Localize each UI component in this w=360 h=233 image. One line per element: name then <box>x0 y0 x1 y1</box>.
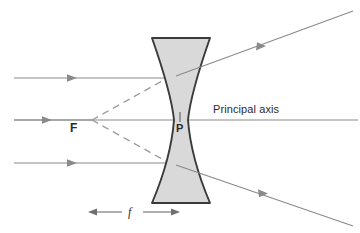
focal-point-label: F <box>70 122 77 134</box>
focal-length-label: f <box>128 206 131 218</box>
axial-incident-ray-arrowhead <box>42 116 52 124</box>
focal-length-right-arrowhead <box>171 208 180 215</box>
ray-diagram-figure: Principal axis F P f <box>0 0 360 233</box>
lower-incident-ray-arrowhead <box>67 159 77 167</box>
pole-label: P <box>176 123 183 134</box>
focal-length-dimension <box>88 208 180 215</box>
principal-axis-label: Principal axis <box>213 104 279 115</box>
upper-incident-ray-arrowhead <box>67 74 77 82</box>
focal-length-left-arrowhead <box>88 208 97 215</box>
ray-diagram-canvas <box>0 0 360 233</box>
